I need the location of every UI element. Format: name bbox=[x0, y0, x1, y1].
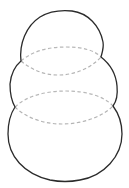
gourd-diagram bbox=[0, 0, 129, 188]
background bbox=[0, 0, 129, 188]
